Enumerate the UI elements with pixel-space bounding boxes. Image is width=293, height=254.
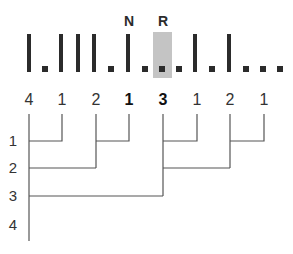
merge-tree [0,0,293,254]
